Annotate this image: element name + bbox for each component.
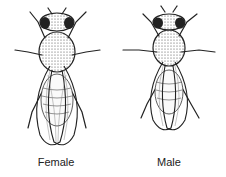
female-label: Female: [26, 156, 86, 168]
male-label: Male: [139, 156, 199, 168]
male-fly-icon: [113, 0, 226, 160]
female-fly-icon: [0, 0, 113, 160]
